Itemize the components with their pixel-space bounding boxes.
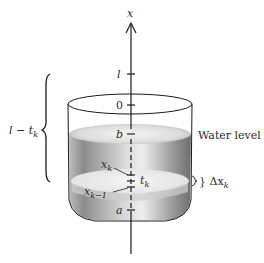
brace-label-main: l − t (9, 124, 33, 137)
label-delta-xk: } Δxk (199, 176, 229, 190)
label-xk: xk (101, 159, 112, 173)
water-level-label: Water level (198, 130, 261, 141)
water-body (69, 124, 191, 220)
label-delta-sub: k (224, 181, 229, 190)
brace-delta-xk (192, 176, 197, 186)
brace-label: l − tk (9, 125, 38, 139)
tick-label-0: 0 (116, 100, 123, 111)
label-delta-main: } Δx (199, 175, 224, 188)
label-tk-sub: k (144, 180, 149, 189)
label-xk-minus-1: xk−1 (84, 186, 107, 200)
label-xk-sub: k (107, 164, 112, 173)
tick-label-l: l (117, 69, 121, 80)
label-tk: tk (140, 175, 149, 189)
tick-label-b: b (116, 129, 123, 140)
axis-label-x: x (127, 8, 133, 19)
label-xk-minus-1-sub: k−1 (90, 191, 107, 200)
tick-label-a: a (116, 205, 123, 216)
brace-label-sub: k (33, 130, 38, 139)
brace-l-minus-tk (42, 74, 50, 182)
